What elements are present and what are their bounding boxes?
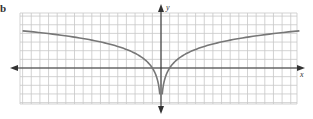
curve-left-branch xyxy=(23,31,160,95)
graph: y x xyxy=(0,0,313,119)
y-axis-label: y xyxy=(165,3,170,12)
y-axis-arrow-down-icon xyxy=(158,106,164,114)
curve-right-branch xyxy=(162,31,299,95)
x-axis-arrow-left-icon xyxy=(10,65,18,71)
y-axis-arrow-up-icon xyxy=(158,4,164,12)
grid-lines xyxy=(20,13,297,104)
x-axis-label: x xyxy=(299,70,304,79)
